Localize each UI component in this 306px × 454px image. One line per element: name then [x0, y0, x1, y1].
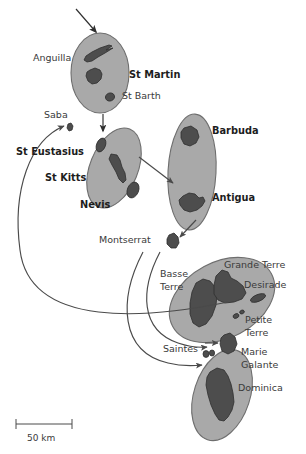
island-map: 50 km Anguilla St Martin St Barth Saba B… — [0, 0, 306, 454]
island-marie-galante — [220, 333, 237, 354]
label-dominica: Dominica — [238, 382, 283, 393]
label-st-kitts: St Kitts — [45, 172, 86, 183]
label-marie: Marie — [241, 346, 268, 357]
island-montserrat — [167, 233, 179, 248]
label-anguilla: Anguilla — [33, 52, 71, 63]
label-barbuda: Barbuda — [212, 125, 259, 136]
label-antigua: Antigua — [212, 192, 255, 203]
label-saba: Saba — [44, 109, 68, 120]
label-montserrat: Montserrat — [99, 234, 151, 245]
label-petite: Petite — [245, 314, 272, 325]
label-basse: Basse — [160, 268, 188, 279]
island-saba — [67, 123, 73, 131]
label-grande-terre: Grande Terre — [224, 259, 285, 270]
island-saintes-a — [203, 351, 209, 358]
scale-bar — [16, 419, 72, 429]
label-galante: Galante — [241, 359, 278, 370]
map-canvas: 50 km Anguilla St Martin St Barth Saba B… — [0, 0, 306, 454]
label-st-martin: St Martin — [129, 69, 180, 80]
label-nevis: Nevis — [80, 199, 111, 210]
label-st-eustasius: St Eustasius — [16, 146, 84, 157]
label-terre: Terre — [159, 281, 183, 292]
label-petite-terre: Terre — [244, 327, 268, 338]
label-desirade: Desirade — [244, 279, 287, 290]
arrow-into-st-martin — [76, 9, 96, 32]
label-st-barth: St Barth — [122, 90, 161, 101]
label-saintes: Saintes — [163, 343, 198, 354]
map-labels: Anguilla St Martin St Barth Saba Barbuda… — [16, 52, 287, 393]
scale-bar-label: 50 km — [27, 433, 55, 443]
island-saintes-b — [209, 350, 214, 356]
